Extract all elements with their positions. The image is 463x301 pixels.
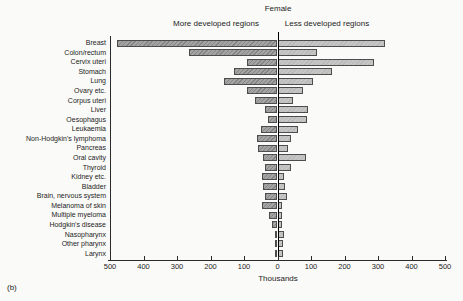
category-label: Liver — [0, 105, 106, 115]
axis-tick-mark — [244, 256, 245, 260]
bar-less-developed — [278, 87, 304, 94]
bar-less-developed — [278, 97, 293, 104]
bar-more-developed — [269, 212, 277, 219]
x-axis-title: Thousands — [258, 274, 298, 283]
axis-tick-label: 400 — [137, 262, 150, 271]
category-label: Leukaemia — [0, 124, 106, 134]
axis-tick-label: 400 — [405, 262, 418, 271]
bar-more-developed — [247, 87, 277, 94]
category-label: Colon/rectum — [0, 48, 106, 58]
category-label: Corpus uteri — [0, 96, 106, 106]
bar-more-developed — [257, 135, 278, 142]
axis-tick-mark — [144, 256, 145, 260]
category-label: Other pharynx — [0, 239, 106, 249]
chart-title: Female — [265, 4, 292, 13]
category-label: Larynx — [0, 249, 106, 259]
bar-less-developed — [278, 116, 308, 123]
bar-less-developed — [278, 145, 289, 152]
bar-less-developed — [278, 40, 386, 47]
bar-more-developed — [255, 97, 277, 104]
bar-less-developed — [278, 49, 317, 56]
category-label: Brain, nervous system — [0, 191, 106, 201]
right-series-header: Less developed regions — [285, 19, 370, 28]
axis-tick-mark — [378, 256, 379, 260]
bar-less-developed — [278, 106, 309, 113]
category-label: Lung — [0, 76, 106, 86]
bar-less-developed — [278, 59, 374, 66]
bar-more-developed — [262, 202, 277, 209]
category-label: Breast — [0, 38, 106, 48]
left-series-header: More developed regions — [173, 19, 259, 28]
axis-tick-mark — [177, 256, 178, 260]
bar-more-developed — [234, 68, 278, 75]
center-axis-line — [278, 32, 279, 260]
axis-tick-label: 300 — [372, 262, 385, 271]
axis-tick-mark — [311, 256, 312, 260]
category-label: Oesophagus — [0, 115, 106, 125]
bar-less-developed — [278, 135, 291, 142]
category-label: Bladder — [0, 182, 106, 192]
category-label: Nasopharynx — [0, 230, 106, 240]
bar-more-developed — [263, 154, 277, 161]
axis-tick-label: 500 — [439, 262, 452, 271]
category-label: Thyroid — [0, 163, 106, 173]
bar-more-developed — [265, 106, 277, 113]
bar-less-developed — [278, 78, 314, 85]
bar-more-developed — [261, 126, 277, 133]
category-label: Hodgkin's disease — [0, 220, 106, 230]
bar-more-developed — [117, 40, 278, 47]
bar-more-developed — [268, 116, 277, 123]
bar-more-developed — [265, 164, 277, 171]
category-label: Melanoma of skin — [0, 201, 106, 211]
category-label: Oral cavity — [0, 153, 106, 163]
bar-more-developed — [189, 49, 278, 56]
chart-figure: Female More developed regions Less devel… — [0, 0, 463, 301]
bar-less-developed — [278, 126, 299, 133]
figure-label: (b) — [7, 283, 17, 292]
category-label: Pancreas — [0, 143, 106, 153]
axis-tick-label: 200 — [338, 262, 351, 271]
bar-more-developed — [247, 59, 278, 66]
category-label: Multiple myeloma — [0, 210, 106, 220]
category-label: Stomach — [0, 67, 106, 77]
axis-tick-mark — [110, 256, 111, 260]
axis-tick-mark — [345, 256, 346, 260]
category-label: Non-Hodgkin's lymphoma — [0, 134, 106, 144]
axis-tick-label: 100 — [305, 262, 318, 271]
category-label: Cervix uteri — [0, 57, 106, 67]
bar-more-developed — [224, 78, 278, 85]
x-axis-line — [108, 260, 447, 261]
bar-more-developed — [263, 183, 277, 190]
axis-tick-label: 200 — [204, 262, 217, 271]
axis-tick-mark — [211, 256, 212, 260]
axis-tick-label: 100 — [238, 262, 251, 271]
bar-more-developed — [265, 193, 277, 200]
left-axis-line — [110, 36, 111, 260]
bar-less-developed — [278, 164, 291, 171]
axis-tick-label: 0 — [275, 262, 279, 271]
axis-tick-label: 300 — [171, 262, 184, 271]
bar-more-developed — [258, 145, 278, 152]
category-label: Kidney etc. — [0, 172, 106, 182]
bar-less-developed — [278, 154, 306, 161]
bar-less-developed — [278, 68, 332, 75]
axis-tick-mark — [445, 256, 446, 260]
axis-tick-mark — [412, 256, 413, 260]
axis-tick-label: 500 — [104, 262, 117, 271]
category-label: Ovary etc. — [0, 86, 106, 96]
bar-more-developed — [262, 173, 277, 180]
axis-tick-mark — [278, 256, 279, 260]
